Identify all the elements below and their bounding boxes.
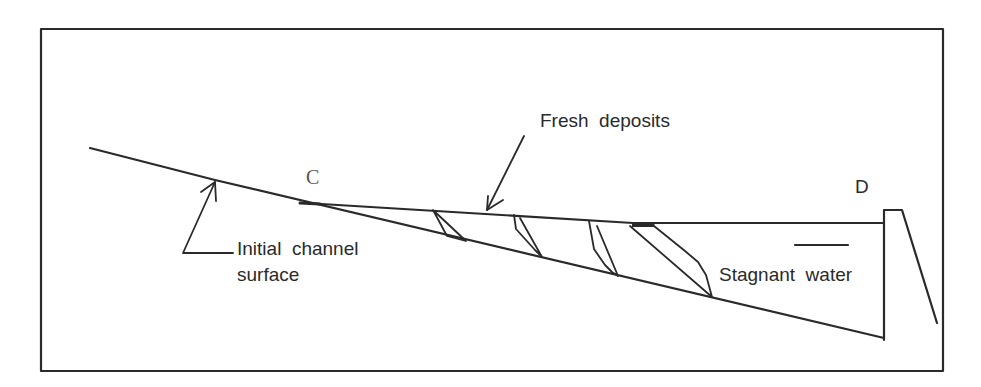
stagnant-water-label: Stagnant water: [719, 264, 853, 285]
dam: [884, 210, 937, 340]
deposit-layer-4-cap: [632, 222, 655, 227]
deposit-layer-3: [589, 221, 618, 276]
deposit-layer-4: [630, 226, 712, 297]
fresh-deposit-surface-line: [305, 203, 884, 223]
initial-channel-label-line2: surface: [237, 264, 299, 285]
point-c-marker: [300, 203, 320, 204]
fresh-deposits-label: Fresh deposits: [540, 110, 670, 131]
initial-channel-arrow: [183, 182, 233, 253]
deposit-layer-1: [433, 210, 466, 241]
initial-channel-label-line1: Initial channel: [237, 238, 358, 259]
diagram-canvas: C D Fresh deposits Initial channel surfa…: [0, 0, 981, 387]
point-d-label: D: [855, 176, 869, 197]
fresh-deposits-arrow: [487, 136, 524, 210]
initial-channel-surface-line: [90, 148, 884, 338]
point-c-label: C: [306, 166, 319, 188]
